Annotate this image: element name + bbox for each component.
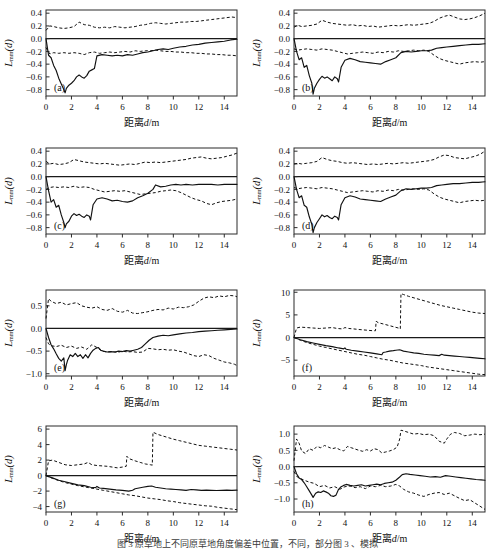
x-axis-title: 距离d/m (372, 254, 408, 266)
x-tick-label: 2 (69, 102, 74, 112)
x-tick-label: 14 (468, 518, 478, 528)
y-tick-label: 0 (286, 333, 291, 343)
panel-letter: (d) (302, 220, 314, 232)
series-lower-envelope (294, 49, 485, 64)
y-tick-label: 5 (286, 310, 291, 320)
x-tick-label: 0 (292, 102, 297, 112)
panel-e: 024681012140.50.0−0.5−1.0(e)距离d/mLmm(d) (0, 282, 245, 414)
y-tick-label: 0.0 (31, 324, 43, 334)
x-tick-label: 2 (317, 382, 322, 392)
y-tick-label: 0.4 (279, 8, 291, 18)
y-tick-label: −0.8 (274, 223, 291, 233)
y-axis-title: Lmm(d) (3, 319, 15, 348)
panel-letter: (g) (54, 498, 66, 510)
series-upper-envelope (46, 295, 237, 318)
y-tick-label: 0.0 (279, 462, 291, 472)
series-upper-envelope (294, 294, 485, 338)
x-tick-label: 12 (442, 102, 451, 112)
x-tick-label: 8 (394, 518, 399, 528)
series-lower-envelope (46, 186, 237, 204)
y-tick-label: −0.4 (274, 197, 291, 207)
panel-g: 024681012146420−2−4(g)距离d/mLmm(d) (0, 418, 245, 550)
y-tick-label: −0.4 (274, 59, 291, 69)
panel-a: 024681012140.40.20.0−0.2−0.4−0.6−0.8(a)距… (0, 2, 245, 134)
series-observed (294, 338, 485, 359)
y-tick-label: 0.4 (31, 146, 43, 156)
y-tick-label: 2 (38, 455, 43, 465)
y-tick-label: 0.2 (279, 21, 290, 31)
x-tick-label: 14 (220, 382, 230, 392)
y-tick-label: 0.5 (279, 446, 291, 456)
x-tick-label: 8 (146, 240, 151, 250)
x-tick-label: 10 (417, 518, 427, 528)
y-axis-title: Lmm(d) (3, 177, 15, 206)
x-tick-label: 4 (95, 102, 100, 112)
x-tick-label: 12 (442, 240, 451, 250)
series-observed (294, 177, 485, 233)
series-lower-envelope (46, 48, 237, 56)
x-tick-label: 0 (44, 102, 49, 112)
x-tick-label: 2 (69, 240, 74, 250)
panel-letter: (a) (54, 82, 65, 94)
panel-letter: (f) (302, 362, 312, 374)
x-tick-label: 4 (95, 382, 100, 392)
y-tick-label: 0.4 (279, 146, 291, 156)
x-tick-label: 12 (194, 518, 203, 528)
x-tick-label: 12 (194, 240, 203, 250)
x-tick-label: 14 (220, 240, 230, 250)
y-tick-label: −0.8 (26, 85, 43, 95)
panel-letter: (h) (302, 498, 314, 510)
y-tick-label: −0.2 (274, 185, 290, 195)
y-tick-label: 0.5 (31, 301, 43, 311)
y-tick-label: −0.2 (274, 47, 290, 57)
y-tick-label: −1.0 (26, 369, 43, 379)
x-tick-label: 6 (368, 382, 373, 392)
x-tick-label: 2 (69, 382, 74, 392)
x-tick-label: 0 (44, 382, 49, 392)
panel-h: 024681012141.00.50.0−0.5−1.0(h)距离d/mLmm(… (248, 418, 493, 550)
y-tick-label: −0.8 (274, 85, 291, 95)
series-upper-envelope (294, 430, 485, 461)
y-tick-label: 0.0 (279, 172, 291, 182)
y-tick-label: −1.0 (274, 494, 291, 504)
x-axis-title: 距离d/m (124, 116, 160, 128)
y-tick-label: −0.6 (26, 72, 43, 82)
x-tick-label: 14 (220, 102, 230, 112)
x-tick-label: 6 (120, 382, 125, 392)
y-tick-label: −0.4 (26, 59, 43, 69)
y-tick-label: −4 (32, 502, 42, 512)
series-upper-envelope (46, 153, 237, 165)
y-axis-title: Lmm(d) (251, 319, 263, 348)
y-tick-label: −0.4 (26, 197, 43, 207)
series-observed (46, 39, 237, 93)
x-tick-label: 8 (394, 240, 399, 250)
panel-c: 024681012140.40.20.0−0.2−0.4−0.6−0.8(c)距… (0, 140, 245, 272)
x-tick-label: 8 (146, 382, 151, 392)
plot-frame (294, 10, 485, 96)
x-tick-label: 14 (468, 240, 478, 250)
plot-frame (294, 290, 485, 376)
x-axis-title: 距离d/m (372, 396, 408, 408)
panel-letter: (b) (302, 82, 314, 94)
figure-caption: 图 3 原草地上不同原草地角度偏差中位置，不同，部分图 3 、模拟 (0, 538, 495, 554)
plot-frame (46, 426, 237, 512)
series-upper-envelope (294, 151, 485, 164)
x-axis-title: 距离d/m (124, 396, 160, 408)
x-tick-label: 10 (417, 240, 427, 250)
x-tick-label: 8 (146, 518, 151, 528)
y-tick-label: 0.4 (31, 8, 43, 18)
y-tick-label: 0 (38, 471, 43, 481)
plot-frame (294, 426, 485, 512)
x-tick-label: 6 (120, 240, 125, 250)
x-tick-label: 4 (343, 240, 348, 250)
y-tick-label: −5 (280, 355, 290, 365)
y-tick-label: 0.0 (31, 172, 43, 182)
series-lower-envelope (46, 476, 237, 510)
x-tick-label: 2 (317, 518, 322, 528)
y-tick-label: −2 (32, 486, 42, 496)
series-observed (46, 476, 237, 491)
x-tick-label: 14 (220, 518, 230, 528)
x-tick-label: 0 (292, 240, 297, 250)
panel-letter: (e) (54, 362, 65, 374)
x-tick-label: 12 (442, 382, 451, 392)
